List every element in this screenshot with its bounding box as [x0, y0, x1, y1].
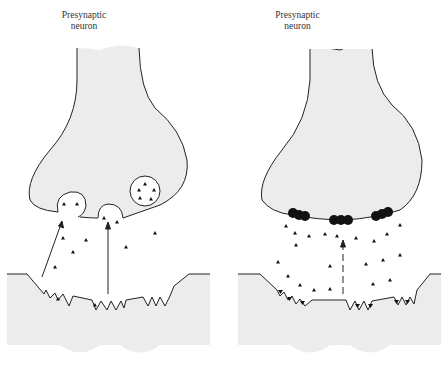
transmitter-molecules-right	[276, 223, 402, 292]
fusing-vesicle-1	[57, 192, 86, 217]
diffusion-arrow-dashed	[341, 240, 346, 294]
postsynaptic-cell-right	[238, 274, 441, 353]
release-arrow-left-1	[42, 221, 64, 277]
presynaptic-terminal-right	[261, 45, 422, 220]
presynaptic-terminal-left	[29, 45, 187, 218]
left-panel: Presynaptic neuron	[0, 0, 220, 377]
right-synapse-diagram	[220, 0, 441, 377]
left-synapse-diagram	[0, 0, 220, 377]
release-arrow-left-2	[106, 222, 111, 294]
right-panel: Presynaptic neuron	[220, 0, 441, 377]
